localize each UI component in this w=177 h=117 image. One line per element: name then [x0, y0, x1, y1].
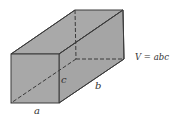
prism-front-face: [11, 54, 59, 103]
label-b: b: [95, 80, 101, 91]
rectangular-prism-diagram: a b c V = abc: [0, 0, 177, 117]
volume-formula: V = abc: [135, 52, 169, 62]
label-c: c: [61, 74, 67, 85]
label-a: a: [34, 105, 40, 116]
